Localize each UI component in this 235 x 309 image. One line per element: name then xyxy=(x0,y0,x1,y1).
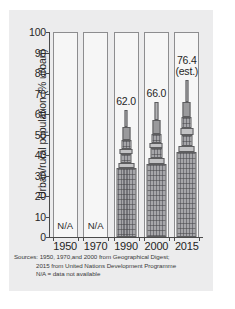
y-tick-label: 100 xyxy=(29,26,46,38)
y-tick-mark xyxy=(46,135,50,136)
building-segment xyxy=(151,134,161,143)
bar-value-label-2000: 66.0 xyxy=(147,88,167,99)
y-tick-mark xyxy=(46,53,50,54)
bar-column-2000[interactable]: 66.02000 xyxy=(144,32,169,237)
skyscraper-bar-1990[interactable] xyxy=(114,110,139,237)
bar-value-label-2015: 76.4(est.) xyxy=(175,55,198,77)
no-data-label: N/A xyxy=(83,220,108,231)
building-segment xyxy=(183,102,191,117)
y-tick-mark xyxy=(46,94,50,95)
building-segment xyxy=(146,164,166,237)
column-frame xyxy=(53,32,78,237)
y-tick-mark xyxy=(46,114,50,115)
y-tick-label: 80 xyxy=(35,67,46,79)
y-tick-label: 20 xyxy=(35,190,46,202)
bar-column-1990[interactable]: 62.01990 xyxy=(114,32,139,237)
y-tick-label: 10 xyxy=(35,211,46,223)
sources-line-2: 2015 from United Nations Development Pro… xyxy=(14,262,210,271)
building-segment xyxy=(121,140,131,149)
no-data-label: N/A xyxy=(53,220,78,231)
building-segment xyxy=(181,135,193,146)
y-tick-label: 70 xyxy=(35,88,46,100)
sources-note: Sources: 1950, 1970,and 2000 from Geogra… xyxy=(14,253,210,279)
sources-line-3: N/A = data not available xyxy=(14,270,210,279)
y-axis-title: Urban/rural population (% urban) xyxy=(36,34,48,214)
building-segment xyxy=(120,154,132,163)
bar-column-1970[interactable]: N/A1970 xyxy=(83,32,108,237)
y-tick-mark xyxy=(46,217,50,218)
bar-value-label-1990: 62.0 xyxy=(116,96,136,107)
skyscraper-bar-2000[interactable] xyxy=(144,102,169,237)
building-segment xyxy=(185,80,189,102)
bar-value: 66.0 xyxy=(147,88,167,99)
y-tick-mark xyxy=(46,176,50,177)
y-tick-mark xyxy=(46,196,50,197)
estimate-annotation: (est.) xyxy=(175,66,198,77)
chart-figure: Urban/rural population (% urban) 0102030… xyxy=(9,10,213,291)
column-frame xyxy=(83,32,108,237)
building-segment xyxy=(151,148,163,158)
y-tick-mark xyxy=(46,155,50,156)
y-tick-label: 30 xyxy=(35,170,46,182)
building-segment xyxy=(182,117,192,128)
y-tick-mark xyxy=(46,237,50,238)
building-segment xyxy=(177,152,197,237)
bar-column-2015[interactable]: 76.4(est.)2015 xyxy=(174,32,199,237)
y-tick-label: 40 xyxy=(35,149,46,161)
building-segment xyxy=(152,120,160,133)
y-tick-label: 90 xyxy=(35,47,46,59)
y-tick-mark xyxy=(46,32,50,33)
skyscraper-bar-2015[interactable] xyxy=(174,80,199,237)
building-segment xyxy=(122,127,130,139)
building-segment xyxy=(124,110,128,128)
bar-column-1950[interactable]: N/A1950 xyxy=(53,32,78,237)
y-tick-label: 60 xyxy=(35,108,46,120)
plot-area: 0102030405060708090100 N/A1950N/A197062.… xyxy=(50,32,202,237)
y-tick-label: 50 xyxy=(35,129,46,141)
y-tick-mark xyxy=(46,73,50,74)
building-segment xyxy=(116,168,136,237)
bar-value: 62.0 xyxy=(116,96,136,107)
x-axis-label-2015: 2015 xyxy=(168,240,205,252)
building-segment xyxy=(155,102,159,121)
sources-line-1: Sources: 1950, 1970,and 2000 from Geogra… xyxy=(14,253,210,262)
